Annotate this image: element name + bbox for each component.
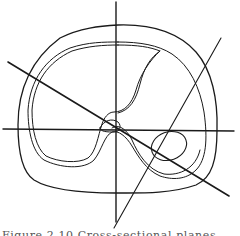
diagram-figure: Figure 2.10 Cross-sectional planes <box>0 0 240 236</box>
inner-contour-inner <box>32 45 160 162</box>
outer-contour <box>18 25 217 193</box>
cross-section-diagram <box>0 0 240 236</box>
diagonal-line-2 <box>114 38 221 228</box>
figure-caption: Figure 2.10 Cross-sectional planes <box>2 229 240 236</box>
